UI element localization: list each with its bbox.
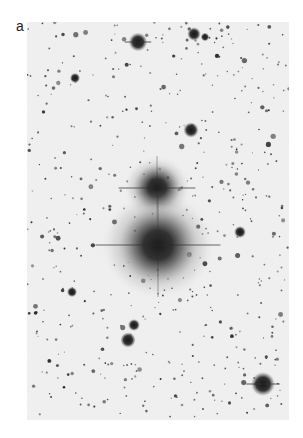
bright-star	[120, 332, 136, 348]
bright-star	[187, 27, 201, 41]
bright-star	[70, 73, 81, 84]
star-field-plate	[27, 22, 289, 420]
bright-star	[234, 226, 247, 239]
panel-label: a	[16, 19, 24, 33]
bright-star	[128, 319, 141, 332]
bright-star	[183, 122, 199, 138]
bright-star	[201, 33, 210, 42]
star-field-image	[27, 22, 289, 420]
bright-star	[67, 287, 78, 298]
